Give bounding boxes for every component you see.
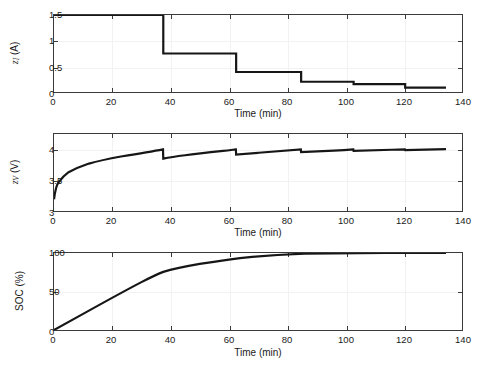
cropped-top-text — [22, 0, 112, 6]
x-axis-label-voltage: Time (min) — [234, 227, 281, 238]
x-axis-label-soc: Time (min) — [234, 347, 281, 358]
x-tick-label: 20 — [106, 334, 117, 345]
y-axis-label-unit-spacer — [9, 55, 20, 58]
x-tick-label: 0 — [50, 334, 55, 345]
current-line — [54, 15, 446, 88]
voltage-line — [54, 149, 446, 199]
x-tick-label: 80 — [282, 215, 293, 226]
x-tick-label: 0 — [50, 215, 55, 226]
soc-curve — [54, 253, 462, 330]
x-tick-label: 140 — [455, 215, 471, 226]
x-tick-label: 100 — [338, 96, 354, 107]
x-tick-label: 40 — [165, 334, 176, 345]
x-tick-label: 80 — [282, 334, 293, 345]
y-axis-label-unit: (A) — [9, 42, 20, 55]
y-axis-label-unit-spacer — [9, 173, 20, 176]
y-axis-label-voltage: zV (V) — [9, 160, 22, 185]
x-tick-label: 0 — [50, 96, 55, 107]
soc-line — [54, 253, 446, 330]
x-tick-label: 120 — [396, 334, 412, 345]
x-tick-label: 100 — [338, 215, 354, 226]
x-axis-label-current: Time (min) — [234, 108, 281, 119]
x-tick-label: 60 — [224, 334, 235, 345]
y-axis-label-variable: z — [9, 180, 20, 184]
x-tick-label: 100 — [338, 334, 354, 345]
matlab-figure: 1.5 1 0.5 0 0 20 40 60 80 100 120 140 Ti… — [0, 0, 489, 368]
x-tick-label: 120 — [396, 215, 412, 226]
x-tick-label: 20 — [106, 215, 117, 226]
y-axis-label-subscript: V — [12, 176, 21, 181]
voltage-curve — [54, 134, 462, 211]
x-tick-label: 40 — [165, 96, 176, 107]
y-axis-label-soc: SOC (%) — [14, 271, 25, 311]
x-tick-label: 40 — [165, 215, 176, 226]
x-tick-label: 20 — [106, 96, 117, 107]
x-tick-label: 60 — [224, 215, 235, 226]
x-tick-label: 80 — [282, 96, 293, 107]
x-tick-label: 120 — [396, 96, 412, 107]
y-axis-label-current: zI (A) — [9, 42, 22, 65]
current-step-curve — [54, 15, 462, 92]
axes-current — [53, 14, 463, 93]
x-tick-label: 140 — [455, 96, 471, 107]
x-tick-label: 60 — [224, 96, 235, 107]
axes-voltage — [53, 133, 463, 212]
y-axis-label-variable: z — [9, 60, 20, 64]
y-axis-label-unit: (V) — [9, 160, 20, 173]
axes-soc — [53, 252, 463, 331]
x-tick-label: 140 — [455, 334, 471, 345]
